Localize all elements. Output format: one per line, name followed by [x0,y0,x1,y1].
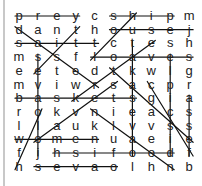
grid-cell[interactable]: e [48,160,66,174]
grid-cell[interactable]: b [180,160,198,174]
grid-cell[interactable]: h [10,160,28,174]
grid-cell[interactable]: a [86,160,104,174]
grid-cell[interactable]: s [29,160,47,174]
grid-cell[interactable]: v [67,160,85,174]
grid-cell[interactable]: h [142,160,160,174]
grid-cell[interactable]: l [123,160,141,174]
grid-cell[interactable]: o [105,160,123,174]
grid-cell[interactable]: n [161,160,179,174]
letter-grid: preycshipmdanthousejsaittcteshmssfloaves… [0,0,202,186]
